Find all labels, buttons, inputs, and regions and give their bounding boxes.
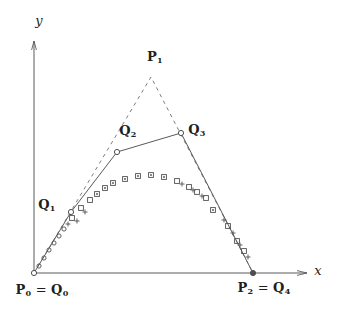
curve-sample-dot-marker xyxy=(104,187,106,189)
curve-sample-dot-marker xyxy=(137,175,139,177)
polygon-vertex-marker xyxy=(68,209,73,214)
curve-sample-plus-marker xyxy=(180,182,185,187)
bezier-construction-figure: yxP1Q1Q2Q3P0 = Q0P2 = Q4 xyxy=(0,0,339,313)
curve-sample-square-marker xyxy=(88,198,93,203)
curve-sample-square-marker xyxy=(79,206,84,211)
curve-sample-plus-marker xyxy=(246,255,251,260)
polygon-vertex-marker xyxy=(114,149,119,154)
curve-sample-dot-marker xyxy=(150,174,152,176)
curve-sample-square-marker xyxy=(187,185,192,190)
curve-sample-dot-marker xyxy=(163,176,165,178)
curve-sample-dot-marker xyxy=(124,178,126,180)
control-polygon-q xyxy=(34,133,253,273)
curve-sample-dot-marker xyxy=(96,193,98,195)
curve-sample-plus-marker xyxy=(222,218,227,223)
curve-sample-circle-marker xyxy=(62,227,66,231)
curve-sample-dot-marker xyxy=(112,182,114,184)
polygon-vertex-marker xyxy=(31,270,36,275)
figure-svg xyxy=(0,0,339,313)
curve-sample-plus-marker xyxy=(75,219,80,224)
polygon-vertex-marker xyxy=(250,270,255,275)
curve-sample-square-marker xyxy=(70,216,75,221)
curve-sample-square-marker xyxy=(175,179,180,184)
curve-sample-dot-marker xyxy=(212,209,214,211)
curve-sample-circle-marker xyxy=(57,234,61,238)
polygon-vertex-marker xyxy=(178,130,183,135)
curve-sample-plus-marker xyxy=(66,222,71,227)
control-polygon-p xyxy=(34,77,253,273)
